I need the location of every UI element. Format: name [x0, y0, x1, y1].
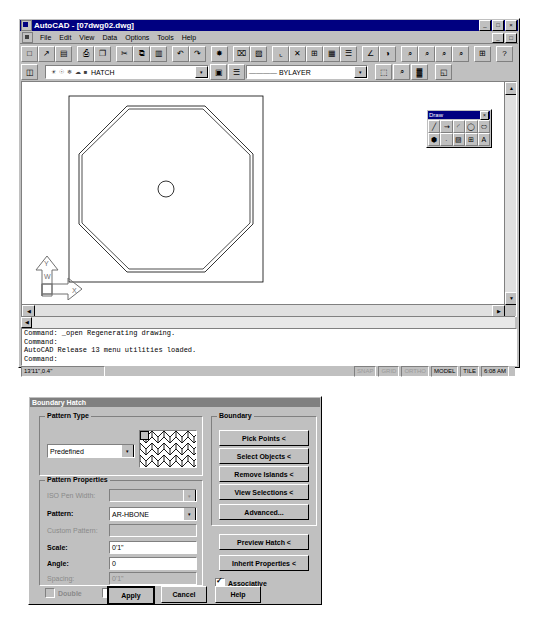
cut-icon[interactable]: ✂: [116, 46, 133, 62]
dialog-title-bar[interactable]: Boundary Hatch: [30, 398, 320, 407]
mspace-icon[interactable]: ▦: [323, 46, 340, 62]
print-icon[interactable]: ⎙: [77, 46, 94, 62]
close-icon[interactable]: ×: [480, 111, 489, 120]
linetype-line-icon[interactable]: ☰: [228, 64, 245, 80]
hatch-icon[interactable]: ▨: [453, 133, 465, 146]
pick-points-button[interactable]: Pick Points <: [219, 430, 309, 446]
paste-icon[interactable]: ▥: [150, 46, 167, 62]
layer-control-icon[interactable]: ⬚: [375, 64, 392, 80]
new-icon[interactable]: □: [21, 46, 38, 62]
select-objects-button[interactable]: Select Objects <: [219, 448, 309, 464]
ucs-x-icon[interactable]: ✕: [289, 46, 306, 62]
select-object-icon[interactable]: ▨: [250, 46, 267, 62]
match-properties-icon[interactable]: ▓: [411, 64, 428, 80]
layer-select[interactable]: ☀ ☉ ❄ ☁ ■ HATCH ▾: [45, 65, 209, 79]
save-icon[interactable]: ▤: [55, 46, 72, 62]
menu-item-file[interactable]: File: [36, 33, 55, 43]
menu-item-tools[interactable]: Tools: [153, 33, 177, 43]
zoom-in-icon[interactable]: ⌕: [435, 46, 452, 62]
zoom-window-icon[interactable]: ⌕: [401, 46, 418, 62]
properties-icon[interactable]: ◱: [435, 64, 452, 80]
document-minimize-button[interactable]: _: [492, 33, 504, 43]
help-icon[interactable]: ?: [496, 46, 513, 62]
print-preview-icon[interactable]: ❐: [94, 46, 111, 62]
polygon-icon[interactable]: ⬢: [428, 133, 440, 146]
close-button[interactable]: ×: [505, 20, 517, 31]
inherit-properties-button[interactable]: Inherit Properties <: [219, 555, 309, 571]
linetype-select[interactable]: ———— BYLAYER ▾: [246, 65, 368, 79]
command-window[interactable]: Command: _open Regenerating drawing. Com…: [21, 328, 517, 366]
undo-icon[interactable]: ↶: [172, 46, 189, 62]
document-restore-button[interactable]: □: [505, 33, 517, 43]
menu-item-edit[interactable]: Edit: [55, 33, 75, 43]
menu-item-options[interactable]: Options: [121, 33, 153, 43]
document-icon[interactable]: [22, 32, 33, 43]
advanced-button[interactable]: Advanced...: [219, 504, 309, 520]
status-tile[interactable]: TILE: [460, 366, 479, 377]
zoom-extents-icon[interactable]: ⊞: [474, 46, 491, 62]
scale-input[interactable]: 0'1": [109, 541, 197, 554]
menu-item-help[interactable]: Help: [178, 33, 200, 43]
snowflake-icon[interactable]: ❄: [66, 68, 73, 76]
command-window-splitter[interactable]: ◀: [21, 316, 515, 328]
horizontal-scrollbar[interactable]: ◀ ▶: [22, 304, 505, 316]
lightbulb-icon[interactable]: ☀: [50, 68, 57, 76]
chevron-down-icon[interactable]: ▾: [121, 444, 134, 458]
splitter-handle-icon[interactable]: ◀: [21, 317, 32, 328]
scroll-down-button[interactable]: ▼: [505, 292, 517, 305]
remove-islands-button[interactable]: Remove Islands <: [219, 466, 309, 482]
view-selections-button[interactable]: View Selections <: [219, 484, 309, 500]
osnap-icon[interactable]: ✸: [211, 46, 228, 62]
preview-hatch-button[interactable]: Preview Hatch <: [219, 534, 309, 550]
maximize-button[interactable]: □: [492, 20, 504, 31]
chevron-down-icon[interactable]: ▾: [195, 66, 208, 78]
zoom-all-icon[interactable]: ⌕: [452, 46, 469, 62]
apply-button[interactable]: Apply: [107, 586, 155, 605]
pspace-icon[interactable]: ☰: [340, 46, 357, 62]
minimize-button[interactable]: _: [479, 20, 491, 31]
ellipse-icon[interactable]: ⬭: [478, 120, 490, 133]
line-icon[interactable]: ╱: [428, 120, 440, 133]
layer-stack-icon[interactable]: ◫: [21, 64, 38, 80]
scroll-up-button[interactable]: ▲: [505, 82, 517, 95]
status-time[interactable]: 6:08 AM: [481, 366, 509, 377]
select-window-icon[interactable]: ⌧: [233, 46, 250, 62]
coordinate-display[interactable]: 13'11",0.4": [21, 366, 105, 377]
object-properties-icon[interactable]: ⌕: [393, 64, 410, 80]
polyline-icon[interactable]: ⇝: [440, 120, 452, 133]
chevron-down-icon[interactable]: ▾: [183, 507, 196, 521]
vertical-scrollbar[interactable]: ▲ ▼: [504, 82, 516, 305]
menu-item-data[interactable]: Data: [98, 33, 121, 43]
chevron-down-icon[interactable]: ▾: [354, 66, 367, 78]
status-grid[interactable]: GRID: [378, 366, 399, 377]
ucs-icon[interactable]: ⌞: [272, 46, 289, 62]
color-swatch-icon[interactable]: ▣: [210, 64, 227, 80]
circle-icon[interactable]: ◯: [465, 120, 477, 133]
menu-item-view[interactable]: View: [75, 33, 98, 43]
thaw-icon[interactable]: ☁: [74, 68, 81, 76]
cancel-button[interactable]: Cancel: [161, 586, 207, 603]
open-icon[interactable]: ↗: [38, 46, 55, 62]
pattern-type-select[interactable]: Predefined ▾: [47, 444, 135, 458]
point-icon[interactable]: ∙: [440, 133, 452, 146]
redo-icon[interactable]: ↷: [189, 46, 206, 62]
copy-icon[interactable]: ⧉: [133, 46, 150, 62]
render-icon[interactable]: ◑: [379, 46, 396, 62]
status-ortho[interactable]: ORTHO: [401, 366, 429, 377]
help-button[interactable]: Help: [215, 586, 261, 603]
block-insert-icon[interactable]: ⊞: [465, 133, 477, 146]
lock-icon[interactable]: ■: [82, 68, 89, 76]
tiled-viewports-icon[interactable]: ⊞: [306, 46, 323, 62]
arc-icon[interactable]: ◜: [453, 120, 465, 133]
dist-icon[interactable]: ∠: [362, 46, 379, 62]
sun-icon[interactable]: ☉: [58, 68, 65, 76]
status-model[interactable]: MODEL: [431, 366, 458, 377]
text-icon[interactable]: A: [478, 133, 490, 146]
status-snap[interactable]: SNAP: [354, 366, 376, 377]
zoom-out-icon[interactable]: ⌕: [418, 46, 435, 62]
hatch-preview-swatch[interactable]: [139, 430, 197, 468]
swatch-scroll-handle[interactable]: [140, 431, 149, 440]
draw-toolbar-title-bar[interactable]: Draw ×: [428, 111, 490, 119]
angle-input[interactable]: 0: [109, 557, 197, 570]
pattern-select[interactable]: AR-HBONE ▾: [109, 507, 197, 521]
